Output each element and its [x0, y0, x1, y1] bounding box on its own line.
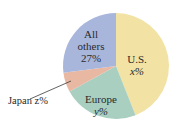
others-value: 27%: [81, 52, 101, 64]
us-label: U.S.: [127, 53, 147, 65]
japan-label: Japan z%: [8, 95, 48, 106]
europe-label: Europe: [85, 93, 117, 105]
others-label-line1: All: [84, 28, 98, 40]
others-label-line2: others: [78, 40, 105, 52]
pie-chart: U.S. x% Europe y% All others 27% Japan z…: [0, 0, 178, 132]
us-value: x%: [129, 65, 144, 77]
europe-value: y%: [93, 105, 108, 117]
